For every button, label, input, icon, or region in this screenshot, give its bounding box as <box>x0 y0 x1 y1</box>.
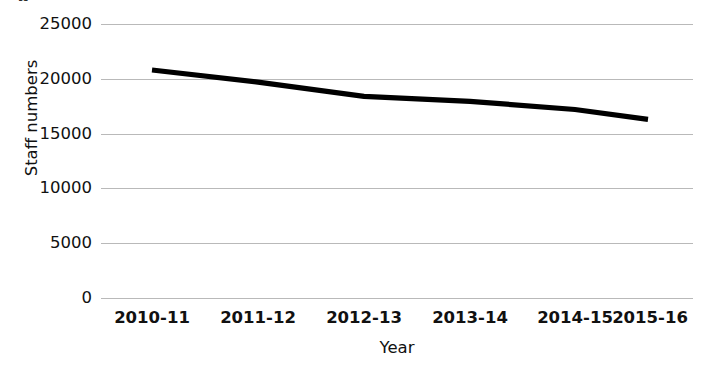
staff-numbers-line-chart: g Staff numbers 25000 20000 15000 10000 … <box>0 0 707 375</box>
series-line-staff-numbers <box>152 70 648 119</box>
plot-area <box>101 24 693 298</box>
x-tick-label: 2010-11 <box>92 308 212 328</box>
y-tick-label: 25000 <box>6 16 92 33</box>
y-tick-label: 15000 <box>6 125 92 142</box>
y-tick-label: 5000 <box>6 235 92 252</box>
y-axis-tick-labels: 25000 20000 15000 10000 5000 0 <box>0 0 92 375</box>
x-axis-tick-labels: 2010-11 2011-12 2012-13 2013-14 2014-15 … <box>101 308 693 332</box>
x-axis-title: Year <box>101 338 693 358</box>
series-staff-numbers <box>101 24 693 298</box>
x-tick-label: 2012-13 <box>304 308 424 328</box>
x-tick-label: 2015-16 <box>590 308 707 328</box>
x-tick-label: 2013-14 <box>410 308 530 328</box>
gridline-0 <box>101 298 693 299</box>
y-tick-label: 0 <box>6 290 92 307</box>
x-tick-label: 2011-12 <box>198 308 318 328</box>
y-tick-label: 20000 <box>6 71 92 88</box>
y-tick-label: 10000 <box>6 180 92 197</box>
